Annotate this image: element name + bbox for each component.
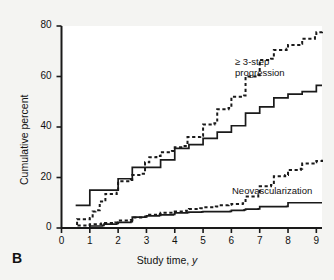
y-tick-label: 60 bbox=[28, 70, 52, 81]
figure-panel-b: Cumulative percent Study time, y ≥ 3-ste… bbox=[0, 0, 334, 280]
x-tick-label: 0 bbox=[52, 235, 72, 246]
y-tick-label: 0 bbox=[28, 221, 52, 232]
x-tick-label: 3 bbox=[136, 235, 156, 246]
x-axis-title: Study time, y bbox=[0, 254, 334, 266]
y-tick-label: 40 bbox=[28, 120, 52, 131]
x-tick-label: 8 bbox=[278, 235, 298, 246]
annotation-progression-line1: ≥ 3-step bbox=[235, 57, 285, 68]
x-tick-label: 6 bbox=[221, 235, 241, 246]
x-tick-label: 1 bbox=[80, 235, 100, 246]
x-tick-label: 7 bbox=[250, 235, 270, 246]
x-axis-title-italic: y bbox=[192, 254, 197, 266]
y-tick-label: 80 bbox=[28, 19, 52, 30]
x-tick-label: 4 bbox=[165, 235, 185, 246]
x-tick-label: 9 bbox=[306, 235, 326, 246]
annotation-progression-line2: progression bbox=[235, 68, 285, 79]
y-tick-label: 20 bbox=[28, 171, 52, 182]
x-tick-label: 5 bbox=[193, 235, 213, 246]
panel-label: B bbox=[12, 250, 22, 266]
annotation-progression: ≥ 3-step progression bbox=[235, 57, 285, 78]
annotation-neovascularization: Neovascularization bbox=[232, 186, 312, 197]
x-tick-label: 2 bbox=[108, 235, 128, 246]
x-axis-title-main: Study time, bbox=[137, 254, 190, 266]
